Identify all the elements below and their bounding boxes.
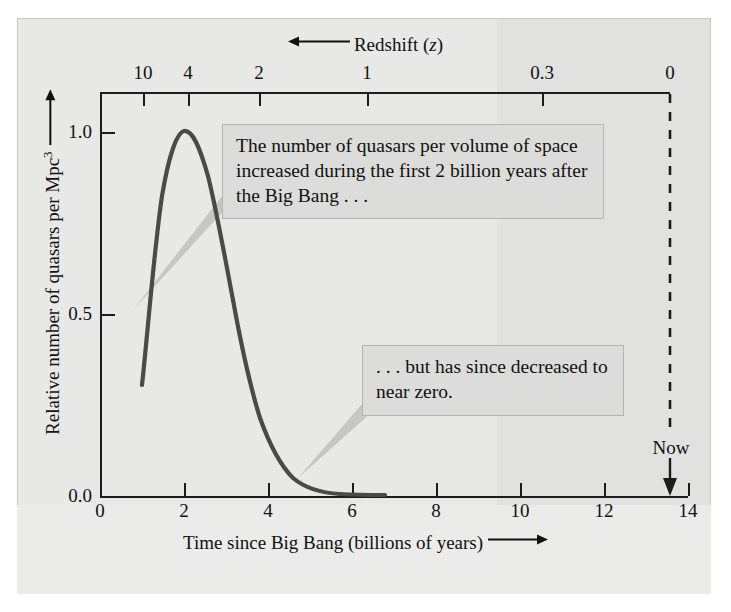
y-axis-title-exponent: 3: [40, 151, 55, 157]
left-arrow-icon: [288, 31, 350, 53]
x-tick-label-8: 8: [406, 500, 466, 522]
x-tick-label-2: 2: [154, 500, 214, 522]
x-tick-8: [436, 483, 438, 496]
y-tick-1point0: [102, 132, 115, 134]
x-tick-10: [520, 483, 522, 496]
top-tick-4: [188, 93, 190, 106]
x-tick-6: [352, 483, 354, 496]
top-tick-label-2: 2: [229, 62, 289, 84]
top-tick-label-1: 1: [337, 62, 397, 84]
now-label: Now: [631, 437, 711, 459]
x-tick-12: [604, 483, 606, 496]
x-tick-label-10: 10: [490, 500, 550, 522]
top-tick-1: [367, 93, 369, 106]
x-tick-14: [688, 483, 690, 496]
top-tick-0point3: [542, 93, 544, 106]
x-tick-2: [184, 483, 186, 496]
x-tick-4: [268, 483, 270, 496]
bottom-axis-title: Time since Big Bang (billions of years): [0, 532, 731, 554]
top-axis-line: [100, 92, 670, 94]
top-tick-10: [143, 93, 145, 106]
top-tick-label-4: 4: [158, 62, 218, 84]
top-tick-2: [259, 93, 261, 106]
top-tick-label-0: 0: [640, 62, 700, 84]
y-tick-0point5: [102, 314, 115, 316]
bottom-axis-title-text: Time since Big Bang (billions of years): [183, 532, 483, 553]
quasar-density-figure: Redshift (z) 10 4 2 1 0.3 0 1.0 0.5 0.0 …: [0, 0, 731, 612]
left-axis-line: [100, 92, 102, 498]
annotation-callout-2: . . . but has since decreased to near ze…: [362, 345, 624, 416]
y-axis-title-text: Relative number of quasars per Mpc: [42, 158, 63, 435]
top-tick-label-0point3: 0.3: [512, 62, 572, 84]
x-tick-label-6: 6: [322, 500, 382, 522]
top-axis-title-text: Redshift (z): [354, 34, 443, 55]
annotation-callout-1: The number of quasars per volume of spac…: [222, 124, 604, 219]
up-arrow-icon: [40, 89, 62, 145]
x-tick-label-12: 12: [574, 500, 634, 522]
x-tick-0: [100, 483, 102, 496]
y-axis-title: Relative number of quasars per Mpc3: [40, 62, 64, 462]
x-tick-label-14: 14: [658, 500, 718, 522]
x-tick-label-4: 4: [238, 500, 298, 522]
top-axis-title: Redshift (z): [0, 34, 731, 56]
x-tick-label-0: 0: [70, 500, 130, 522]
bottom-axis-line: [100, 496, 688, 498]
right-arrow-icon: [488, 529, 548, 551]
y-tick-0point0: [102, 496, 115, 498]
